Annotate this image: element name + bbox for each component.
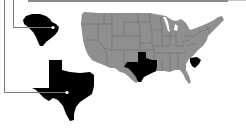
us-map [81,12,224,84]
texas-callout-dot [65,91,68,94]
contiguous-us-shape [81,12,224,84]
map-canvas [0,0,246,128]
south-carolina-callout-dot [51,26,54,29]
top-bar [28,0,246,2]
texas-inset [32,60,94,121]
south-carolina-on-map [190,57,201,68]
south-carolina-inset [23,14,59,46]
